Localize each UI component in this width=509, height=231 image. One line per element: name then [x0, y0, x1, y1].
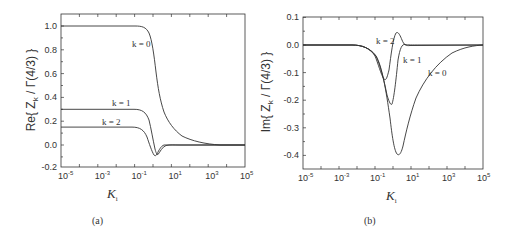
- x-axis-label-a: Ki: [106, 186, 118, 203]
- x-tick-label: 103: [442, 172, 456, 183]
- x-tick-label: 101: [406, 172, 420, 183]
- y-axis-label-b: Im{ Zk / Γ(4/3) }: [259, 52, 275, 133]
- panel-label-b: (b): [364, 215, 376, 227]
- x-tick-label: 101: [168, 170, 182, 181]
- curve-label-k0-a: k = 0: [132, 39, 151, 49]
- curve-k1-a: [61, 109, 245, 154]
- y-tick-label: -0.2: [283, 95, 299, 105]
- y-tick-label: 0.4: [44, 92, 57, 102]
- y-tick-label: 0.2: [44, 116, 57, 126]
- curves-a: [61, 26, 245, 156]
- curve-label-k1-a: k = 1: [112, 98, 131, 108]
- y-tick-labels-a: 1.0 0.8 0.6 0.4 0.2 0.0 -0.2: [41, 21, 57, 172]
- panel-a: 1.0 0.8 0.6 0.4 0.2 0.0 -0.2: [24, 14, 254, 227]
- x-tick-label: 105: [477, 172, 491, 183]
- y-tick-label: 0.0: [44, 140, 57, 150]
- y-tick-label: 0.0: [286, 40, 299, 50]
- curve-label-k1-b: k = 1: [403, 55, 422, 65]
- figure: 1.0 0.8 0.6 0.4 0.2 0.0 -0.2: [0, 0, 509, 231]
- x-tick-label: 10-3: [334, 172, 350, 183]
- y-tick-label: 0.1: [286, 12, 299, 22]
- curve-k1-b: [303, 44, 483, 104]
- curves-b: [303, 32, 483, 154]
- x-tick-label: 10-3: [95, 170, 111, 181]
- panel-label-a: (a): [92, 215, 103, 227]
- y-tick-label: -0.4: [283, 150, 299, 160]
- y-axis-label-a: Re{ Zk / Γ(4/3) }: [24, 49, 40, 132]
- x-tick-label: 103: [205, 170, 219, 181]
- x-tick-labels-a: 10-5 10-3 10-1 101 103 105: [58, 170, 254, 181]
- y-tick-labels-b: 0.1 0.0 -0.1 -0.2 -0.3 -0.4: [283, 12, 299, 160]
- x-tick-label: 105: [240, 170, 254, 181]
- x-tick-label: 10-1: [370, 172, 386, 183]
- y-ticks-a: [61, 26, 64, 157]
- x-tick-label: 10-5: [58, 170, 74, 181]
- y-tick-label: -0.2: [41, 162, 57, 172]
- x-tick-label: 10-5: [298, 172, 314, 183]
- curve-label-k2-a: k = 2: [102, 117, 121, 127]
- panel-b: 0.1 0.0 -0.1 -0.2 -0.3 -0.4: [259, 12, 491, 227]
- x-tick-label: 10-1: [132, 170, 148, 181]
- x-ticks-a: [79, 14, 226, 167]
- y-ticks-b: [303, 17, 306, 155]
- y-tick-label: 0.6: [44, 69, 57, 79]
- x-axis-label-b: Ki: [385, 188, 397, 205]
- y-tick-label: -0.1: [283, 68, 299, 78]
- curve-label-k0-b: k = 0: [428, 68, 447, 78]
- y-tick-label: 0.8: [44, 45, 57, 55]
- y-tick-label: -0.3: [283, 123, 299, 133]
- curve-label-k2-b: k = 2: [376, 36, 395, 46]
- x-tick-labels-b: 10-5 10-3 10-1 101 103 105: [298, 172, 491, 183]
- plot-frame-a: [61, 14, 245, 167]
- y-tick-label: 1.0: [44, 21, 57, 31]
